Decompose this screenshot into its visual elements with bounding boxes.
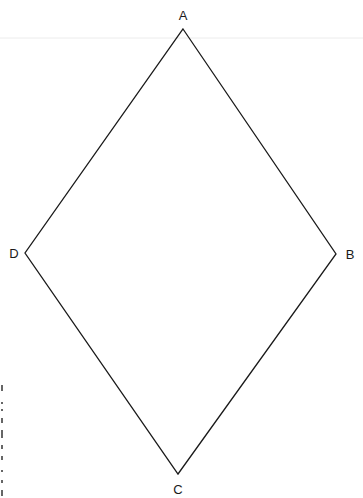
scan-mark xyxy=(1,385,3,391)
scan-mark xyxy=(1,445,3,449)
vertex-label-d: D xyxy=(9,246,18,261)
scan-mark xyxy=(1,418,3,423)
scan-artifact-marks xyxy=(1,385,3,496)
scan-mark xyxy=(1,480,3,483)
scan-mark xyxy=(1,490,3,496)
scan-mark xyxy=(1,409,3,411)
scan-mark xyxy=(1,456,3,460)
rhombus-shape xyxy=(25,29,336,474)
scan-mark xyxy=(1,402,3,404)
scan-mark xyxy=(1,470,3,472)
scan-mark xyxy=(1,430,3,438)
vertex-label-a: A xyxy=(179,8,188,23)
vertex-label-b: B xyxy=(346,247,355,262)
rhombus-diagram: A B C D xyxy=(0,0,363,498)
vertex-label-c: C xyxy=(173,482,182,497)
